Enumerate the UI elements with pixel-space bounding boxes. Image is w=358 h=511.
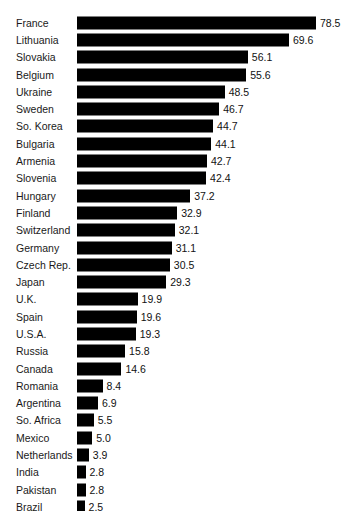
- bar-row: Romania8.4: [0, 377, 358, 394]
- value-label: 14.6: [125, 363, 145, 374]
- bar-fill: [77, 449, 89, 462]
- bar-fill: [77, 500, 85, 511]
- category-label: Bulgaria: [16, 138, 55, 149]
- bar: [77, 414, 94, 427]
- bar: [77, 397, 98, 410]
- bar-row: Lithuania69.6: [0, 31, 358, 48]
- category-label: Romania: [16, 381, 58, 392]
- category-label: Germany: [16, 242, 59, 253]
- category-label: Canada: [16, 363, 53, 374]
- bar-row: Mexico5.0: [0, 429, 358, 446]
- value-label: 3.9: [93, 450, 108, 461]
- bar: [77, 379, 103, 392]
- category-label: Japan: [16, 277, 45, 288]
- bar-fill: [77, 120, 213, 133]
- bar-fill: [77, 310, 137, 323]
- value-label: 69.6: [293, 35, 313, 46]
- bar: [77, 466, 86, 479]
- value-label: 30.5: [174, 260, 194, 271]
- category-label: Belgium: [16, 69, 54, 80]
- bar: [77, 310, 137, 323]
- bar-row: Czech Rep.30.5: [0, 256, 358, 273]
- bar-row: Spain19.6: [0, 308, 358, 325]
- category-label: Switzerland: [16, 225, 70, 236]
- bar-fill: [77, 466, 86, 479]
- category-label: Argentina: [16, 398, 61, 409]
- value-label: 19.3: [140, 329, 160, 340]
- bar-fill: [77, 379, 103, 392]
- bar-row: U.S.A.19.3: [0, 325, 358, 342]
- bar-row: Bulgaria44.1: [0, 135, 358, 152]
- bar-fill: [77, 362, 121, 375]
- value-label: 19.9: [142, 294, 162, 305]
- bar-row: Japan29.3: [0, 273, 358, 290]
- bar: [77, 345, 125, 358]
- bar-fill: [77, 172, 206, 185]
- bar-row: Armenia42.7: [0, 152, 358, 169]
- bar-fill: [77, 293, 138, 306]
- bar-row: Argentina6.9: [0, 395, 358, 412]
- category-label: Slovenia: [16, 173, 56, 184]
- value-label: 56.1: [252, 52, 272, 63]
- bar-fill: [77, 137, 211, 150]
- category-label: Finland: [16, 208, 50, 219]
- bar-fill: [77, 397, 98, 410]
- value-label: 42.4: [210, 173, 230, 184]
- bar-row: France78.5: [0, 14, 358, 31]
- value-label: 44.7: [217, 121, 237, 132]
- bar: [77, 155, 207, 168]
- bar: [77, 293, 138, 306]
- bar-fill: [77, 258, 170, 271]
- bar-row: Sweden46.7: [0, 100, 358, 117]
- bar: [77, 449, 89, 462]
- category-label: U.K.: [16, 294, 36, 305]
- bar-row: Canada14.6: [0, 360, 358, 377]
- category-label: Lithuania: [16, 35, 59, 46]
- category-label: India: [16, 467, 39, 478]
- bar-row: Finland32.9: [0, 204, 358, 221]
- bar-fill: [77, 16, 316, 29]
- value-label: 48.5: [229, 87, 249, 98]
- category-label: U.S.A.: [16, 329, 46, 340]
- value-label: 2.8: [90, 467, 105, 478]
- bar: [77, 224, 175, 237]
- value-label: 19.6: [141, 311, 161, 322]
- value-label: 8.4: [107, 381, 122, 392]
- bar-fill: [77, 85, 225, 98]
- bar-fill: [77, 345, 125, 358]
- value-label: 55.6: [250, 69, 270, 80]
- category-label: Brazil: [16, 502, 42, 511]
- bar-row: U.K.19.9: [0, 291, 358, 308]
- bar-fill: [77, 483, 86, 496]
- bar-fill: [77, 155, 207, 168]
- bar-fill: [77, 241, 172, 254]
- bar-row: Germany31.1: [0, 239, 358, 256]
- bar: [77, 16, 316, 29]
- category-label: Ukraine: [16, 87, 52, 98]
- bar-fill: [77, 68, 246, 81]
- bar: [77, 241, 172, 254]
- value-label: 2.8: [90, 484, 105, 495]
- bar-fill: [77, 431, 92, 444]
- category-label: Spain: [16, 311, 43, 322]
- bar-fill: [77, 206, 177, 219]
- value-label: 37.2: [194, 190, 214, 201]
- bar-row: India2.8: [0, 464, 358, 481]
- bar-chart-figure: France78.5Lithuania69.6Slovakia56.1Belgi…: [0, 0, 358, 511]
- value-label: 78.5: [320, 17, 340, 28]
- category-label: Sweden: [16, 104, 54, 115]
- value-label: 32.1: [179, 225, 199, 236]
- category-label: Armenia: [16, 156, 55, 167]
- bar: [77, 103, 219, 116]
- bar-row: Ukraine48.5: [0, 83, 358, 100]
- bar: [77, 483, 86, 496]
- bar: [77, 68, 246, 81]
- bar: [77, 500, 85, 511]
- value-label: 46.7: [223, 104, 243, 115]
- value-label: 31.1: [176, 242, 196, 253]
- bar: [77, 189, 190, 202]
- bar-row: Slovakia56.1: [0, 49, 358, 66]
- bar-row: Pakistan2.8: [0, 481, 358, 498]
- bar: [77, 172, 206, 185]
- bar-row: Brazil2.5: [0, 498, 358, 511]
